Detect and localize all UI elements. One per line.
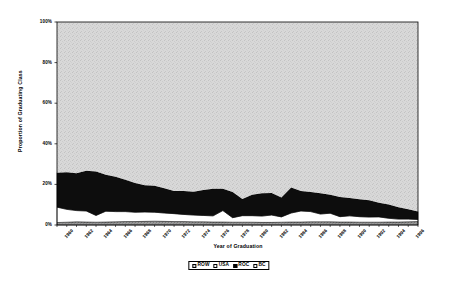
legend-item-usa[interactable]: USA <box>214 263 230 268</box>
legend-label: USA <box>219 263 229 268</box>
legend-item-bc[interactable]: BC <box>253 263 265 268</box>
plot-area <box>0 0 458 291</box>
legend-swatch-icon <box>253 264 257 268</box>
stacked-area-chart: Proportion of Graduating Class Year of G… <box>0 0 458 291</box>
legend-item-row[interactable]: ROW <box>192 263 209 268</box>
chart-legend: ROWUSAROCBC <box>188 261 269 270</box>
legend-item-roc[interactable]: ROC <box>233 263 249 268</box>
legend-swatch-icon <box>192 264 196 268</box>
legend-swatch-icon <box>214 264 218 268</box>
legend-label: BC <box>259 263 266 268</box>
legend-label: ROC <box>238 263 249 268</box>
legend-swatch-icon <box>233 264 237 268</box>
legend-label: ROW <box>198 263 210 268</box>
